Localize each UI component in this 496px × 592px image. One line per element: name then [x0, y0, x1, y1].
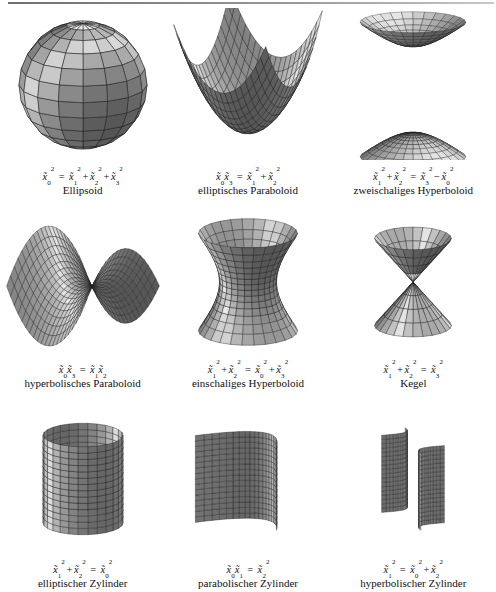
caption-two-sheeted-hyperboloid: x̃12+x̃22 = x̃32−x̃02 zweischaliges Hype…	[331, 171, 496, 201]
caption-hyperbolic-cylinder: x̃12 = x̃02+x̃22 hyperbolischer Zylinder	[331, 564, 496, 592]
caption-hyperbolic-paraboloid: x̃0x̃3 = x̃1x̃2 hyperbolisches Paraboloi…	[0, 364, 165, 394]
figure-cell-parabolic-cylinder: x̃0x̃1 = x̃22 parabolischer Zylinder	[165, 394, 330, 592]
figure-grid: x̃02 = x̃12+x̃22+x̃32 Ellipsoid x̃0x̃3 =…	[0, 4, 496, 592]
figure-cell-hyperbolic-cylinder: x̃12 = x̃02+x̃22 hyperbolischer Zylinder	[331, 394, 496, 592]
figure-cone	[331, 201, 496, 364]
label-one-sheeted-hyperboloid: einschaliges Hyperboloid	[165, 377, 330, 390]
formula-elliptic-cylinder: x̃12+x̃22 = x̃02	[0, 564, 165, 576]
label-elliptic-paraboloid: elliptisches Paraboloid	[165, 184, 330, 197]
figure-cell-hyperbolic-paraboloid: x̃0x̃3 = x̃1x̃2 hyperbolisches Paraboloi…	[0, 201, 165, 394]
figure-elliptic-paraboloid	[165, 4, 330, 171]
figure-one-sheeted-hyperboloid	[165, 201, 330, 364]
figure-cell-ellipsoid: x̃02 = x̃12+x̃22+x̃32 Ellipsoid	[0, 4, 165, 201]
figure-cell-elliptic-paraboloid: x̃0x̃3 = x̃12+x̃22 elliptisches Parabolo…	[165, 4, 330, 201]
label-two-sheeted-hyperboloid: zweischaliges Hyperboloid	[331, 184, 496, 197]
formula-one-sheeted-hyperboloid: x̃12+x̃22 = x̃02+x̃32	[165, 364, 330, 376]
caption-one-sheeted-hyperboloid: x̃12+x̃22 = x̃02+x̃32 einschaliges Hyper…	[165, 364, 330, 394]
figure-hyperbolic-cylinder	[331, 394, 496, 564]
formula-hyperbolic-paraboloid: x̃0x̃3 = x̃1x̃2	[0, 364, 165, 376]
figure-elliptic-cylinder	[0, 394, 165, 564]
figure-ellipsoid	[0, 4, 165, 171]
caption-elliptic-paraboloid: x̃0x̃3 = x̃12+x̃22 elliptisches Parabolo…	[165, 171, 330, 201]
figure-cell-two-sheeted-hyperboloid: x̃12+x̃22 = x̃32−x̃02 zweischaliges Hype…	[331, 4, 496, 201]
figure-cell-one-sheeted-hyperboloid: x̃12+x̃22 = x̃02+x̃32 einschaliges Hyper…	[165, 201, 330, 394]
caption-cone: x̃12+x̃22 = x̃32 Kegel	[331, 364, 496, 394]
label-ellipsoid: Ellipsoid	[0, 184, 165, 197]
caption-parabolic-cylinder: x̃0x̃1 = x̃22 parabolischer Zylinder	[165, 564, 330, 592]
formula-ellipsoid: x̃02 = x̃12+x̃22+x̃32	[0, 171, 165, 183]
figure-cell-elliptic-cylinder: x̃12+x̃22 = x̃02 elliptischer Zylinder	[0, 394, 165, 592]
formula-hyperbolic-cylinder: x̃12 = x̃02+x̃22	[331, 564, 496, 576]
caption-elliptic-cylinder: x̃12+x̃22 = x̃02 elliptischer Zylinder	[0, 564, 165, 592]
formula-two-sheeted-hyperboloid: x̃12+x̃22 = x̃32−x̃02	[331, 171, 496, 183]
formula-elliptic-paraboloid: x̃0x̃3 = x̃12+x̃22	[165, 171, 330, 183]
figure-plate: x̃02 = x̃12+x̃22+x̃32 Ellipsoid x̃0x̃3 =…	[0, 0, 496, 592]
label-cone: Kegel	[331, 377, 496, 390]
figure-two-sheeted-hyperboloid	[331, 4, 496, 171]
caption-ellipsoid: x̃02 = x̃12+x̃22+x̃32 Ellipsoid	[0, 171, 165, 201]
label-hyperbolic-cylinder: hyperbolischer Zylinder	[331, 577, 496, 590]
formula-parabolic-cylinder: x̃0x̃1 = x̃22	[165, 564, 330, 576]
figure-hyperbolic-paraboloid	[0, 201, 165, 364]
label-elliptic-cylinder: elliptischer Zylinder	[0, 577, 165, 590]
figure-cell-cone: x̃12+x̃22 = x̃32 Kegel	[331, 201, 496, 394]
figure-parabolic-cylinder	[165, 394, 330, 564]
label-parabolic-cylinder: parabolischer Zylinder	[165, 577, 330, 590]
formula-cone: x̃12+x̃22 = x̃32	[331, 364, 496, 376]
label-hyperbolic-paraboloid: hyperbolisches Paraboloid	[0, 377, 165, 390]
